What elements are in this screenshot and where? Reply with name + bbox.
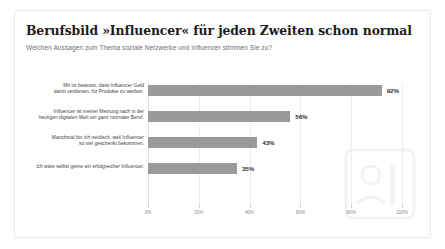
bar-category-label-line2: damit verdienen, für Produkte zu werben. [18,89,144,95]
chart-card: Berufsbild »Influencer« für jeden Zweite… [14,10,431,238]
x-axis-tick-mark [199,205,200,208]
chart-header: Berufsbild »Influencer« für jeden Zweite… [26,23,420,52]
x-axis-tick-label: 60% [296,210,305,215]
bar-category-label: Influencer ist meiner Meinung nach in de… [18,109,144,122]
x-axis-tick-label: 20% [194,210,203,215]
bar-category-label: Manchmal bin ich neidisch, weil Influenc… [18,135,144,148]
x-axis-tick-mark [148,205,149,208]
plot-area: Mir ist bewusst, dass Influencer Geld da… [15,73,431,223]
bar [148,163,237,174]
bar-value-label: 56% [295,111,307,122]
bar-category-label-line2: so viel geschenkt bekommen. [18,141,144,147]
x-axis-tick-mark [402,205,403,208]
bar-category-label: Ich wäre selbst gerne ein erfolgreicher … [18,164,144,170]
x-axis-tick-mark [300,205,301,208]
bar-category-label-line2: heutigen digitalen Welt ein ganz normale… [18,115,144,121]
page-title: Berufsbild »Influencer« für jeden Zweite… [26,23,420,38]
x-axis-tick-label: 80% [347,210,356,215]
x-axis: 0%20%40%60%80%100% [148,205,402,221]
bar [148,111,290,122]
bar-category-label-line1: Ich wäre selbst gerne ein erfolgreicher … [18,164,144,170]
bar [148,85,382,96]
chart-subtitle: Welchen Aussagen zum Thema soziale Netzw… [26,43,420,52]
bar-row: Ich wäre selbst gerne ein erfolgreicher … [15,161,431,187]
bar-value-label: 92% [387,85,399,96]
bar-row: Manchmal bin ich neidisch, weil Influenc… [15,135,431,161]
bar-category-label: Mir ist bewusst, dass Influencer Geld da… [18,83,144,96]
x-axis-tick-label: 0% [145,210,152,215]
bar-value-label: 35% [242,163,254,174]
bar [148,137,257,148]
x-axis-tick-label: 40% [245,210,254,215]
x-axis-tick-label: 100% [396,210,408,215]
screenshot-root: Berufsbild »Influencer« für jeden Zweite… [0,0,445,249]
bar-value-label: 43% [262,137,274,148]
bar-row: Influencer ist meiner Meinung nach in de… [15,109,431,135]
bar-rows: Mir ist bewusst, dass Influencer Geld da… [15,83,431,205]
bar-row: Mir ist bewusst, dass Influencer Geld da… [15,83,431,109]
x-axis-tick-mark [250,205,251,208]
x-axis-tick-mark [351,205,352,208]
